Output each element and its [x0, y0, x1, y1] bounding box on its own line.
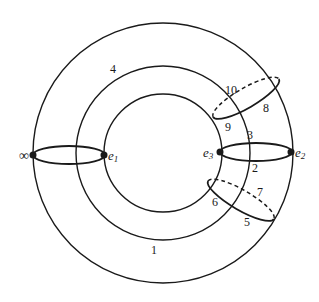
edge-label-1: 1: [151, 243, 157, 257]
graph-diagram: ∞ e1 e3 e2 1 2 3 4 5 6 7 8 9 10: [0, 0, 319, 302]
edge-label-10: 10: [225, 83, 237, 97]
label-e1: e1: [108, 148, 118, 164]
edge-label-2: 2: [252, 161, 258, 175]
upper-right-cut: [208, 70, 284, 125]
edge-label-6: 6: [212, 195, 218, 209]
edge-label-3: 3: [247, 128, 253, 142]
right-ellipse: [220, 143, 292, 161]
label-infinity: ∞: [19, 148, 29, 163]
edge-label-9: 9: [225, 120, 231, 134]
outer-circle: [33, 23, 293, 283]
edge-label-7: 7: [257, 185, 263, 199]
label-e3: e3: [203, 145, 214, 161]
label-e2: e2: [295, 145, 306, 161]
edge-label-8: 8: [263, 101, 269, 115]
left-ellipse: [33, 146, 105, 164]
edge-label-4: 4: [110, 62, 116, 76]
vertex-e2: [288, 149, 295, 156]
edge-label-5: 5: [244, 215, 250, 229]
vertex-infinity: [30, 152, 37, 159]
vertex-e3: [217, 149, 224, 156]
vertex-e1: [101, 152, 108, 159]
